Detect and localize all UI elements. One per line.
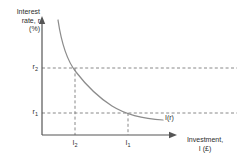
y-axis-label: Interest rate, r (%): [2, 8, 40, 34]
curve-label-text: I(r): [165, 114, 174, 121]
investment-demand-curve: [58, 20, 163, 120]
y-axis-label-line2: rate, r: [22, 17, 40, 24]
y-tick-label-r2: r2: [24, 63, 38, 72]
x-axis-label-line1: Investment,: [187, 136, 223, 143]
x-tick-label-i1: I1: [121, 139, 135, 148]
y-tick-r2-sub: 2: [35, 66, 38, 72]
investment-demand-figure: Interest rate, r (%) Investment, I (£) I…: [0, 0, 237, 166]
curve-label: I(r): [165, 114, 174, 123]
x-tick-i1-sub: 1: [127, 142, 130, 148]
x-axis-label-line2: I (£): [199, 145, 211, 152]
y-tick-label-r1: r1: [24, 108, 38, 117]
x-axis-label: Investment, I (£): [176, 136, 234, 153]
y-axis-label-line3: (%): [29, 25, 40, 32]
x-tick-label-i2: I2: [68, 139, 82, 148]
y-axis-label-line1: Interest: [17, 8, 40, 15]
x-tick-i2-sub: 2: [74, 142, 77, 148]
y-tick-r1-sub: 1: [35, 111, 38, 117]
